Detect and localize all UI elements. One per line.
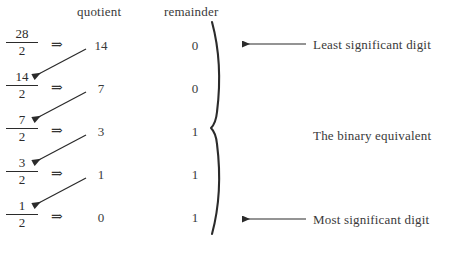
remainder-value-row-1: 0 [182,38,208,54]
carry-arrow-3-to-4 [33,135,86,163]
fraction-row-5: 1 2 [4,199,40,229]
fraction-denominator: 2 [4,43,40,58]
fraction-denominator: 2 [4,172,40,187]
fraction-numerator: 7 [4,113,40,128]
fraction-numerator: 28 [4,27,40,42]
remainder-value-row-4: 1 [182,167,208,183]
carry-arrow-2-to-3 [33,92,86,120]
implies-icon-row-5: ⇒ [51,210,63,224]
carry-arrow-4-to-5 [33,178,86,206]
implies-icon-row-1: ⇒ [51,38,63,52]
fraction-denominator: 2 [4,86,40,101]
implies-icon-row-4: ⇒ [51,167,63,181]
fraction-numerator: 14 [4,70,40,85]
remainder-grouping-brace [211,22,219,234]
annotation-binary-equivalent: The binary equivalent [313,128,431,144]
fraction-denominator: 2 [4,129,40,144]
remainder-value-row-3: 1 [182,124,208,140]
fraction-row-4: 3 2 [4,156,40,186]
remainder-value-row-2: 0 [182,81,208,97]
implies-icon-row-3: ⇒ [51,124,63,138]
fraction-row-2: 14 2 [4,70,40,100]
annotation-most-significant-digit: Most significant digit [313,212,429,228]
annotation-least-significant-digit: Least significant digit [313,37,431,53]
quotient-value-row-5: 0 [88,210,114,226]
carry-arrow-1-to-2 [33,49,86,77]
fraction-numerator: 3 [4,156,40,171]
quotient-value-row-2: 7 [88,81,114,97]
implies-icon-row-2: ⇒ [51,81,63,95]
column-header-quotient: quotient [77,4,121,20]
fraction-denominator: 2 [4,215,40,230]
fraction-numerator: 1 [4,199,40,214]
quotient-value-row-3: 3 [88,124,114,140]
column-header-remainder: remainder [164,4,219,20]
quotient-value-row-1: 14 [88,38,114,54]
quotient-value-row-4: 1 [88,167,114,183]
binary-conversion-figure: quotient remainder 28 2 ⇒ 14 0 14 2 ⇒ 7 … [0,0,453,256]
fraction-row-1: 28 2 [4,27,40,57]
remainder-value-row-5: 1 [182,210,208,226]
fraction-row-3: 7 2 [4,113,40,143]
